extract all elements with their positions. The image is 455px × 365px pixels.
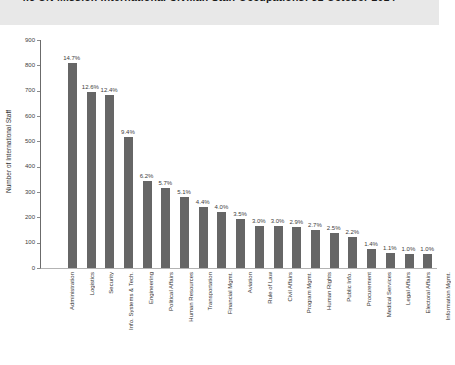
bar: 6.2%	[143, 181, 152, 268]
y-tick-mark	[37, 116, 40, 117]
bar-percent-label: 2.2%	[345, 229, 359, 235]
bar: 1.4%	[367, 249, 376, 269]
y-tick-label: 200	[0, 214, 35, 221]
bar: 1.0%	[423, 254, 432, 268]
x-axis-label: Human Rights	[319, 272, 339, 310]
bar-slot: 1.1%	[381, 40, 400, 268]
bar-slot: 5.1%	[175, 40, 194, 268]
x-axis-label: Legal Affairs	[399, 272, 419, 305]
bar: 5.7%	[161, 188, 170, 268]
bar-slot: 12.6%	[82, 40, 101, 268]
y-tick-label: 400	[0, 163, 35, 170]
bar: 3.5%	[236, 219, 245, 268]
bar: 1.1%	[386, 253, 395, 268]
y-tick-label: 100	[0, 239, 35, 246]
bar-slot: 5.7%	[157, 40, 176, 268]
bar-slot: 6.2%	[138, 40, 157, 268]
bar-slot: 2.7%	[306, 40, 325, 268]
bar-percent-label: 1.1%	[383, 245, 397, 251]
bar: 9.4%	[124, 137, 133, 268]
y-tick-mark	[37, 268, 40, 269]
x-axis-label: Program Mgmt.	[300, 272, 320, 313]
bar: 5.1%	[180, 197, 189, 268]
x-axis-label: Electoral Affairs	[418, 272, 438, 314]
x-axis-label: Logistics	[82, 272, 102, 295]
x-axis-label: Rule of Law	[260, 272, 280, 304]
x-axis-label: Administration	[62, 272, 82, 310]
bar-slot: 2.2%	[344, 40, 363, 268]
x-axis-label: Medical Services	[379, 272, 399, 317]
y-tick-label: 700	[0, 87, 35, 94]
bar-percent-label: 2.5%	[327, 225, 341, 231]
bar-slot: 1.0%	[400, 40, 419, 268]
bar: 3.0%	[255, 226, 264, 268]
bar-slot: 14.7%	[63, 40, 82, 268]
bar-percent-label: 3.5%	[233, 211, 247, 217]
bar-slot: 2.9%	[287, 40, 306, 268]
bar-slot: 4.4%	[194, 40, 213, 268]
bar-percent-label: 5.1%	[177, 189, 191, 195]
x-axis-label: Information Mgmt.	[438, 272, 455, 320]
bar: 2.2%	[348, 237, 357, 268]
x-axis-labels: AdministrationLogisticsSecurityInfo. Sys…	[40, 272, 455, 362]
bar-percent-label: 2.7%	[308, 222, 322, 228]
y-tick-label: 0	[0, 265, 35, 272]
bar-percent-label: 5.7%	[158, 180, 172, 186]
bar-slot: 2.5%	[325, 40, 344, 268]
bar: 14.7%	[68, 63, 77, 268]
bar: 2.9%	[292, 227, 301, 268]
bars-container: 14.7%12.6%12.4%9.4%6.2%5.7%5.1%4.4%4.0%3…	[41, 40, 437, 268]
x-axis-label: Engineering	[141, 272, 161, 304]
y-tick-label: 900	[0, 37, 35, 44]
x-axis-label: Info. Systems & Tech.	[121, 272, 141, 330]
x-axis-label: Human Resources	[181, 272, 201, 322]
x-axis-label: Security	[102, 272, 122, 294]
y-tick-mark	[37, 141, 40, 142]
bar: 12.4%	[105, 95, 114, 268]
y-tick-mark	[37, 217, 40, 218]
bar-slot: 9.4%	[119, 40, 138, 268]
bar-slot: 3.5%	[231, 40, 250, 268]
bar-slot: 1.4%	[362, 40, 381, 268]
y-tick-label: 500	[0, 138, 35, 145]
x-axis-label: Procurement	[359, 272, 379, 306]
bar-slot: 1.0%	[418, 40, 437, 268]
bar-percent-label: 2.9%	[289, 219, 303, 225]
bar-percent-label: 1.4%	[364, 241, 378, 247]
y-axis-title: Number of International Staff	[5, 87, 12, 217]
bar-percent-label: 4.0%	[215, 204, 229, 210]
bar-percent-label: 3.0%	[271, 218, 285, 224]
x-axis-label: Civil Affairs	[280, 272, 300, 302]
header-band: 4.5 UN Mission International Civilian St…	[0, 0, 439, 25]
bar-percent-label: 12.6%	[82, 84, 99, 90]
plot-area: 14.7%12.6%12.4%9.4%6.2%5.7%5.1%4.4%4.0%3…	[40, 40, 437, 269]
bar-slot: 3.0%	[250, 40, 269, 268]
y-tick-mark	[37, 65, 40, 66]
bar: 4.4%	[199, 207, 208, 268]
bar-percent-label: 12.4%	[101, 87, 118, 93]
y-tick-mark	[37, 91, 40, 92]
bar: 2.7%	[311, 230, 320, 268]
bar-percent-label: 6.2%	[140, 173, 154, 179]
bar: 1.0%	[405, 254, 414, 268]
bar-percent-label: 1.0%	[420, 246, 434, 252]
bar: 12.6%	[87, 92, 96, 268]
bar-percent-label: 4.4%	[196, 199, 210, 205]
x-axis-label: Financial Mgmt.	[220, 272, 240, 314]
x-axis-label: Aviation	[240, 272, 260, 293]
bar-percent-label: 3.0%	[252, 218, 266, 224]
y-tick-label: 600	[0, 113, 35, 120]
y-tick-label: 300	[0, 189, 35, 196]
bar: 4.0%	[217, 212, 226, 268]
figure-title: 4.5 UN Mission International Civilian St…	[20, 0, 396, 3]
bar: 3.0%	[274, 226, 283, 268]
y-tick-mark	[37, 167, 40, 168]
y-tick-mark	[37, 243, 40, 244]
x-axis-label: Public Info.	[339, 272, 359, 302]
bar-chart: Number of International Staff 14.7%12.6%…	[0, 25, 439, 365]
bar-percent-label: 14.7%	[63, 55, 80, 61]
bar-percent-label: 9.4%	[121, 129, 135, 135]
bar-slot: 4.0%	[213, 40, 232, 268]
bar: 2.5%	[330, 233, 339, 268]
y-tick-mark	[37, 40, 40, 41]
